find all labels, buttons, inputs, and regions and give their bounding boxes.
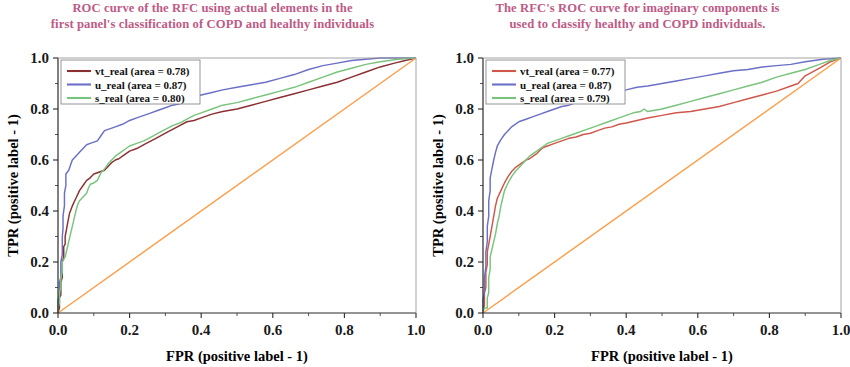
legend: vt_real (area = 0.77)u_real (area = 0.87… [486, 60, 625, 105]
legend-label-2: s_real (area = 0.79) [520, 92, 610, 105]
legend-label-0: vt_real (area = 0.78) [95, 65, 190, 78]
legend: vt_real (area = 0.78)u_real (area = 0.87… [61, 60, 200, 105]
panel-left-plot: 0.00.20.40.60.81.00.00.20.40.60.81.0FPR … [0, 0, 425, 367]
roc-figure: ROC curve of the RFC using actual elemen… [0, 0, 850, 367]
panel-right-plot: 0.00.20.40.60.81.00.00.20.40.60.81.0FPR … [425, 0, 850, 367]
x-tick-group: 0.00.20.40.60.81.0 [474, 313, 850, 338]
x-axis-label: FPR (positive label - 1) [591, 348, 733, 365]
x-axis-label: FPR (positive label - 1) [166, 348, 308, 365]
panel-left-svg: 0.00.20.40.60.81.00.00.20.40.60.81.0FPR … [0, 0, 425, 367]
y-axis-label: TPR (positive label - 1) [430, 114, 447, 257]
y-tick-label: 0.2 [455, 254, 474, 270]
x-tick-label: 0.0 [49, 322, 68, 338]
x-tick-label: 0.6 [263, 322, 282, 338]
x-tick-label: 0.2 [120, 322, 139, 338]
legend-label-1: u_real (area = 0.87) [520, 79, 612, 92]
y-tick-label: 0.2 [30, 254, 49, 270]
legend-label-1: u_real (area = 0.87) [95, 79, 187, 92]
x-tick-label: 0.8 [760, 322, 779, 338]
y-tick-label: 1.0 [30, 50, 49, 66]
x-tick-label: 0.4 [617, 322, 636, 338]
y-tick-label: 1.0 [455, 50, 474, 66]
y-tick-label: 0.8 [30, 101, 49, 117]
y-tick-label: 0.0 [455, 305, 474, 321]
y-tick-label: 0.4 [455, 203, 474, 219]
y-tick-label: 0.6 [30, 152, 49, 168]
legend-label-0: vt_real (area = 0.77) [520, 65, 615, 78]
y-tick-label: 0.6 [455, 152, 474, 168]
x-tick-group: 0.00.20.40.60.81.0 [49, 313, 425, 338]
y-tick-label: 0.0 [30, 305, 49, 321]
legend-label-2: s_real (area = 0.80) [95, 92, 185, 105]
x-tick-label: 0.4 [192, 322, 211, 338]
panel-left: ROC curve of the RFC using actual elemen… [0, 0, 425, 367]
panel-right-svg: 0.00.20.40.60.81.00.00.20.40.60.81.0FPR … [425, 0, 850, 367]
y-axis-label: TPR (positive label - 1) [5, 114, 22, 257]
panel-right: The RFC's ROC curve for imaginary compon… [425, 0, 850, 367]
x-tick-label: 0.8 [335, 322, 354, 338]
x-tick-label: 1.0 [407, 322, 425, 338]
y-tick-group: 0.00.20.40.60.81.0 [455, 50, 483, 321]
y-tick-label: 0.8 [455, 101, 474, 117]
x-tick-label: 0.2 [545, 322, 564, 338]
x-tick-label: 0.6 [688, 322, 707, 338]
x-tick-label: 0.0 [474, 322, 493, 338]
y-tick-label: 0.4 [30, 203, 49, 219]
x-tick-label: 1.0 [832, 322, 850, 338]
y-tick-group: 0.00.20.40.60.81.0 [30, 50, 58, 321]
